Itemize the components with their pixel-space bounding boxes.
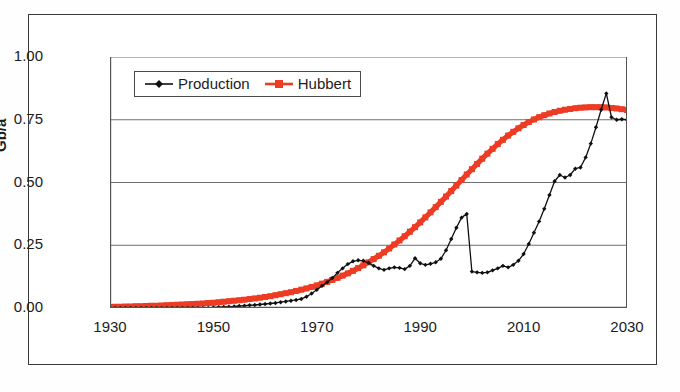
- x-tick-label-1970: 1970: [300, 319, 333, 334]
- chart-legend: Production Hubbert: [134, 71, 361, 97]
- chart-figure: Gb/a 1.000.750.500.250.00 19301950197019…: [0, 0, 680, 392]
- legend-label-hubbert: Hubbert: [298, 75, 351, 92]
- y-tick-label-0-50: 0.50: [14, 174, 43, 189]
- x-tick-label-2030: 2030: [610, 319, 643, 334]
- y-tick-label-0-00: 0.00: [14, 299, 43, 314]
- x-tick-label-2010: 2010: [507, 319, 540, 334]
- y-tick-label-0-25: 0.25: [14, 236, 43, 251]
- legend-marker-square-icon: [264, 78, 294, 90]
- x-tick-label-1930: 1930: [93, 319, 126, 334]
- y-tick-label-1-00: 1.00: [14, 48, 43, 63]
- y-axis-title: Gb/a: [0, 119, 9, 152]
- x-tick-label-1950: 1950: [197, 319, 230, 334]
- series-production-line: [110, 91, 627, 308]
- y-tick-label-0-75: 0.75: [14, 111, 43, 126]
- legend-entry-production: Production: [144, 75, 250, 92]
- legend-entry-hubbert: Hubbert: [264, 75, 351, 92]
- series-hubbert-line: [110, 104, 627, 308]
- legend-label-production: Production: [178, 75, 250, 92]
- x-tick-label-1990: 1990: [404, 319, 437, 334]
- legend-marker-diamond-icon: [144, 78, 174, 90]
